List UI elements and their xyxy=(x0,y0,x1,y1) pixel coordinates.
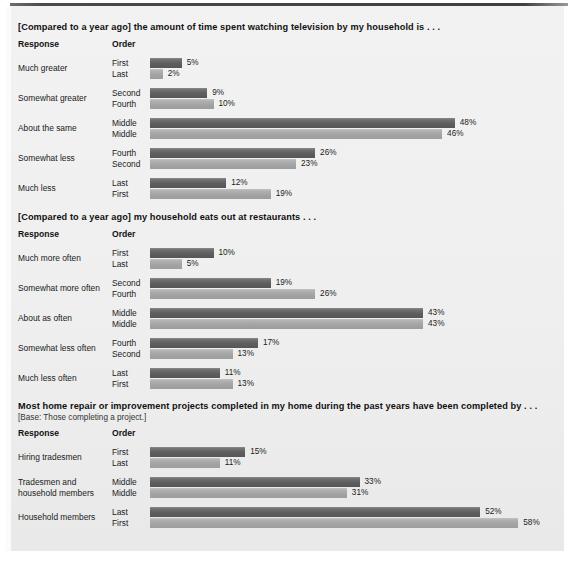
bar-bottom xyxy=(150,129,442,139)
section-title: Most home repair or improvement projects… xyxy=(18,401,537,411)
bar-value-bottom: 23% xyxy=(301,159,317,168)
bar-bottom xyxy=(150,259,182,269)
order-label-bottom: Second xyxy=(112,349,140,359)
bar-value-bottom: 13% xyxy=(238,379,254,388)
response-label-line: About as often xyxy=(18,313,72,324)
order-label-top: Middle xyxy=(112,308,137,318)
response-label-line: Much less xyxy=(18,183,56,194)
response-label-line: Somewhat greater xyxy=(18,93,86,104)
order-label-top: Fourth xyxy=(112,148,136,158)
bar-top xyxy=(150,477,360,487)
bar-top xyxy=(150,368,220,378)
order-label-top: Fourth xyxy=(112,338,136,348)
response-label: Much less xyxy=(18,183,56,194)
response-label: About as often xyxy=(18,313,72,324)
bar-top xyxy=(150,248,214,258)
bar-bottom xyxy=(150,159,296,169)
order-label-bottom: Middle xyxy=(112,129,137,139)
response-label: Somewhat less often xyxy=(18,343,96,354)
response-label: Much greater xyxy=(18,63,67,74)
bar-top xyxy=(150,148,315,158)
order-label-bottom: First xyxy=(112,379,128,389)
response-label-line: household members xyxy=(18,488,94,499)
section-base-note: [Base: Those completing a project.] xyxy=(18,413,146,422)
bar-value-bottom: 19% xyxy=(276,189,292,198)
response-label-line: Somewhat more often xyxy=(18,283,100,294)
bar-value-top: 9% xyxy=(212,88,224,97)
order-label-bottom: Fourth xyxy=(112,289,136,299)
section-title: [Compared to a year ago] my household ea… xyxy=(18,212,316,222)
bar-value-bottom: 10% xyxy=(219,99,235,108)
response-label-line: Much greater xyxy=(18,63,67,74)
bar-value-bottom: 11% xyxy=(225,458,241,467)
bar-value-top: 11% xyxy=(225,368,241,377)
bar-value-top: 15% xyxy=(250,447,266,456)
order-label-bottom: Last xyxy=(112,458,128,468)
order-label-top: First xyxy=(112,447,128,457)
response-label-line: Tradesmen and xyxy=(18,477,94,488)
order-label-bottom: Second xyxy=(112,159,140,169)
bar-value-bottom: 2% xyxy=(168,69,180,78)
order-label-bottom: Middle xyxy=(112,488,137,498)
response-label-line: Hiring tradesmen xyxy=(18,452,82,463)
bar-value-top: 10% xyxy=(219,248,235,257)
response-label-line: About the same xyxy=(18,123,77,134)
bar-bottom xyxy=(150,518,518,528)
bar-top xyxy=(150,308,423,318)
bar-bottom xyxy=(150,458,220,468)
bar-top xyxy=(150,58,182,68)
bar-value-bottom: 13% xyxy=(238,349,254,358)
order-label-bottom: Last xyxy=(112,69,128,79)
order-label-bottom: Fourth xyxy=(112,99,136,109)
column-header-response: Response xyxy=(18,39,59,49)
response-label: Somewhat more often xyxy=(18,283,100,294)
bar-value-top: 33% xyxy=(365,477,381,486)
response-label: Somewhat less xyxy=(18,153,75,164)
response-label-line: Much more often xyxy=(18,253,81,264)
response-label-line: Somewhat less often xyxy=(18,343,96,354)
order-label-top: First xyxy=(112,58,128,68)
bar-bottom xyxy=(150,379,233,389)
response-label: Somewhat greater xyxy=(18,93,86,104)
bar-value-bottom: 46% xyxy=(447,129,463,138)
bar-top xyxy=(150,88,207,98)
response-label: Hiring tradesmen xyxy=(18,452,82,463)
response-label-line: Much less often xyxy=(18,373,77,384)
response-label-line: Somewhat less xyxy=(18,153,75,164)
bar-bottom xyxy=(150,189,271,199)
bar-bottom xyxy=(150,99,214,109)
order-label-bottom: Middle xyxy=(112,319,137,329)
bar-value-top: 43% xyxy=(428,308,444,317)
column-header-order: Order xyxy=(112,428,135,438)
bar-value-top: 12% xyxy=(231,178,247,187)
bar-bottom xyxy=(150,488,347,498)
response-label-line: Household members xyxy=(18,512,95,523)
column-header-order: Order xyxy=(112,39,135,49)
bar-value-top: 5% xyxy=(187,58,199,67)
bar-bottom xyxy=(150,289,315,299)
order-label-top: Last xyxy=(112,368,128,378)
bar-top xyxy=(150,447,245,457)
bar-top xyxy=(150,118,455,128)
order-label-bottom: First xyxy=(112,189,128,199)
order-label-top: Second xyxy=(112,278,140,288)
bar-value-top: 26% xyxy=(320,148,336,157)
response-label: Household members xyxy=(18,512,95,523)
bar-value-top: 52% xyxy=(485,507,501,516)
response-label: Much less often xyxy=(18,373,77,384)
order-label-top: Last xyxy=(112,178,128,188)
bar-top xyxy=(150,507,480,517)
order-label-top: Second xyxy=(112,88,140,98)
bar-value-top: 48% xyxy=(460,118,476,127)
bar-top xyxy=(150,278,271,288)
section-title: [Compared to a year ago] the amount of t… xyxy=(18,22,440,32)
order-label-bottom: Last xyxy=(112,259,128,269)
bar-bottom xyxy=(150,319,423,329)
bar-top xyxy=(150,178,226,188)
bar-value-bottom: 31% xyxy=(352,488,368,497)
bar-value-top: 19% xyxy=(276,278,292,287)
bar-value-bottom: 58% xyxy=(523,518,539,527)
response-label: Tradesmen andhousehold members xyxy=(18,477,94,499)
bar-bottom xyxy=(150,69,163,79)
order-label-bottom: First xyxy=(112,518,128,528)
